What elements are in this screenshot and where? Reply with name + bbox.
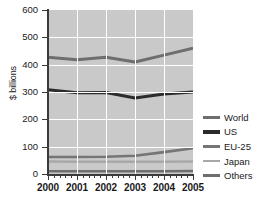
gridline-vertical xyxy=(106,10,107,174)
gridline-horizontal xyxy=(48,147,193,148)
x-axis-tick-minor xyxy=(60,175,61,178)
x-axis-tick-major xyxy=(106,175,107,180)
legend-label: World xyxy=(224,112,249,123)
legend-label: Japan xyxy=(224,156,250,167)
x-axis-tick-minor xyxy=(112,175,113,178)
legend-item-us[interactable]: US xyxy=(203,125,264,140)
x-axis-tick-minor xyxy=(187,175,188,178)
y-axis-tick-label: 600 xyxy=(0,4,38,15)
legend-item-world[interactable]: World xyxy=(203,110,264,125)
x-axis-tick-minor xyxy=(71,175,72,178)
y-axis-tick-label: 0 xyxy=(0,168,38,179)
legend-item-eu-25[interactable]: EU-25 xyxy=(203,139,264,154)
gridline-horizontal xyxy=(48,92,193,93)
y-axis-tick-label: 500 xyxy=(0,31,38,42)
legend: WorldUSEU-25JapanOthers xyxy=(203,110,264,183)
legend-item-japan[interactable]: Japan xyxy=(203,154,264,169)
legend-swatch xyxy=(203,130,220,133)
x-axis-tick-minor xyxy=(152,175,153,178)
legend-swatch xyxy=(203,145,220,148)
x-axis-tick-minor xyxy=(147,175,148,178)
x-axis-tick-major xyxy=(135,175,136,180)
x-axis-tick-major xyxy=(48,175,49,180)
x-axis-tick-minor xyxy=(176,175,177,178)
x-axis-tick-minor xyxy=(181,175,182,178)
x-axis-tick-minor xyxy=(83,175,84,178)
series-line-world xyxy=(48,48,193,62)
y-axis-tick-label: 100 xyxy=(0,141,38,152)
x-axis-tick-minor xyxy=(118,175,119,178)
x-axis-tick-minor xyxy=(54,175,55,178)
legend-label: Others xyxy=(224,170,253,181)
gridline-vertical xyxy=(135,10,136,174)
legend-swatch xyxy=(203,174,220,177)
x-axis-tick-minor xyxy=(170,175,171,178)
x-axis-tick-minor xyxy=(141,175,142,178)
y-axis-line xyxy=(47,9,49,175)
series-line-eu-25 xyxy=(48,148,193,157)
plot-area xyxy=(48,10,193,174)
gridline-horizontal xyxy=(48,37,193,38)
x-axis-tick-minor xyxy=(100,175,101,178)
x-axis-tick-minor xyxy=(89,175,90,178)
gridline-horizontal xyxy=(48,65,193,66)
legend-swatch xyxy=(203,116,220,119)
y-axis-tick-label: 200 xyxy=(0,113,38,124)
x-axis-tick-major xyxy=(193,175,194,180)
legend-item-others[interactable]: Others xyxy=(203,168,264,183)
y-axis-tick-label: 300 xyxy=(0,86,38,97)
x-axis-tick-minor xyxy=(158,175,159,178)
gridline-vertical xyxy=(77,10,78,174)
x-axis-tick-major xyxy=(77,175,78,180)
x-axis-tick-label: 2005 xyxy=(176,182,210,193)
x-axis-tick-minor xyxy=(65,175,66,178)
legend-label: US xyxy=(224,126,237,137)
x-axis-tick-major xyxy=(164,175,165,180)
x-axis-tick-minor xyxy=(123,175,124,178)
chart-figure: $ billions 0100200300400500600 200020012… xyxy=(0,0,264,201)
y-axis-tick-label: 400 xyxy=(0,59,38,70)
x-axis-tick-minor xyxy=(129,175,130,178)
x-axis-line xyxy=(47,174,194,176)
legend-swatch xyxy=(203,160,220,163)
legend-label: EU-25 xyxy=(224,141,251,152)
x-axis-tick-minor xyxy=(94,175,95,178)
gridline-horizontal xyxy=(48,119,193,120)
gridline-vertical xyxy=(164,10,165,174)
